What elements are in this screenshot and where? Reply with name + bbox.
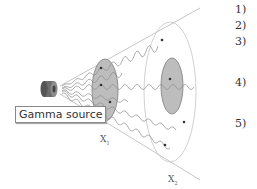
absorber-x2 [161, 58, 183, 114]
gamma-source-icon [41, 81, 58, 97]
list-item-5: 5) [235, 117, 246, 130]
x1-label-subscript: 1 [106, 140, 109, 146]
list-item-3: 3) [235, 35, 246, 48]
list-item-4: 4) [235, 76, 246, 89]
x1-label: X1 [100, 134, 110, 146]
gamma-source-label: Gamma source [15, 106, 106, 123]
x2-label-subscript: 2 [174, 180, 177, 186]
list-item-1: 1) [235, 3, 246, 16]
list-item-2: 2) [235, 19, 246, 32]
gamma-attenuation-diagram [0, 0, 257, 189]
x2-label: X2 [168, 174, 178, 186]
